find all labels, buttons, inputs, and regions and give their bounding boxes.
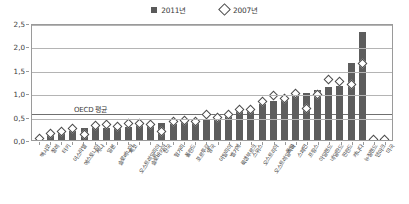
x-axis-tick-mark: [139, 142, 140, 145]
bar-group[interactable]: [45, 25, 56, 140]
bar-group[interactable]: [268, 25, 279, 140]
bar-group[interactable]: [156, 25, 167, 140]
bar-2011[interactable]: [336, 86, 343, 140]
y-axis-tick-mark: [26, 47, 29, 48]
bar-group[interactable]: [179, 25, 190, 140]
marker-2007[interactable]: [35, 133, 45, 141]
bar-group[interactable]: [346, 25, 357, 140]
bar-group[interactable]: [379, 25, 390, 140]
x-axis-label-slot: 벨기에: [223, 142, 234, 204]
marker-2007[interactable]: [379, 134, 389, 141]
bar-group[interactable]: [245, 25, 256, 140]
bar-group[interactable]: [56, 25, 67, 140]
bar-group[interactable]: [357, 25, 368, 140]
bar-group[interactable]: [168, 25, 179, 140]
x-axis-label-slot: 슬로베니아: [111, 142, 122, 204]
x-axis-label-slot: 이탈리아: [212, 142, 223, 204]
bar-group[interactable]: [323, 25, 334, 140]
legend-label-2007: 2007년: [233, 4, 258, 15]
bar-2011[interactable]: [236, 110, 243, 140]
bar-2011[interactable]: [270, 101, 277, 140]
x-axis-tick-mark: [274, 142, 275, 145]
gridline: [32, 95, 392, 96]
x-axis-label-slot: 슬로바키아: [145, 142, 156, 204]
bar-group[interactable]: [90, 25, 101, 140]
bar-group[interactable]: [234, 25, 245, 140]
x-axis-tick-mark: [374, 142, 375, 145]
y-axis-tick-mark: [26, 71, 29, 72]
x-axis-tick-mark: [251, 142, 252, 145]
x-axis-label-slot: 이스라엘: [67, 142, 78, 204]
x-axis-label-slot: 케냐: [89, 142, 100, 204]
x-axis-label-slot: 독일: [279, 142, 290, 204]
open-diamond-icon: [218, 3, 231, 16]
bar-2011[interactable]: [292, 95, 299, 140]
bar-group[interactable]: [134, 25, 145, 140]
y-axis-tick-mark: [26, 141, 29, 142]
x-axis-label-slot: 오스트레일리아: [134, 142, 145, 204]
y-axis-tick-label: 0,0: [14, 137, 25, 146]
marker-2007[interactable]: [324, 75, 334, 85]
bar-group[interactable]: [257, 25, 268, 140]
x-axis-tick-mark: [184, 142, 185, 145]
bar-group[interactable]: [67, 25, 78, 140]
x-axis-tick-mark: [150, 142, 151, 145]
y-axis-tick-label: 0,5: [14, 113, 25, 122]
x-axis-tick-label: 미국: [385, 143, 397, 155]
bar-group[interactable]: [79, 25, 90, 140]
bar-group[interactable]: [368, 25, 379, 140]
x-axis-label-slot: 네덜란드: [324, 142, 335, 204]
bar-group[interactable]: [301, 25, 312, 140]
x-axis-label-slot: 헝가리: [167, 142, 178, 204]
x-axis-label-slot: 폴란드: [178, 142, 189, 204]
x-axis-tick-mark: [341, 142, 342, 145]
y-axis-tick-label: 1,0: [14, 90, 25, 99]
bar-group[interactable]: [279, 25, 290, 140]
x-axis-tick-mark: [285, 142, 286, 145]
bar-group[interactable]: [101, 25, 112, 140]
bar-group[interactable]: [112, 25, 123, 140]
oecd-comparison-bar-chart: 2011년 2007년 0,00,51,01,52,02,5 OECD 평균 멕…: [0, 0, 409, 204]
x-axis-label-slot: 뉴질랜드: [357, 142, 368, 204]
x-axis-tick-mark: [240, 142, 241, 145]
bar-group[interactable]: [334, 25, 345, 140]
gridline: [32, 48, 392, 49]
bar-group[interactable]: [212, 25, 223, 140]
x-axis-tick-mark: [83, 142, 84, 145]
bar-group[interactable]: [312, 25, 323, 140]
bar-2011[interactable]: [259, 104, 266, 141]
bar-group[interactable]: [201, 25, 212, 140]
x-axis-label-slot: 에스토니아: [78, 142, 89, 204]
bar-2011[interactable]: [303, 93, 310, 140]
x-axis-label-slot: 아일랜드: [313, 142, 324, 204]
bar-2011[interactable]: [103, 128, 110, 140]
filled-square-icon: [151, 7, 157, 13]
bar-group[interactable]: [190, 25, 201, 140]
legend-item-2011[interactable]: 2011년: [151, 4, 186, 15]
bar-group[interactable]: [34, 25, 45, 140]
bar-group[interactable]: [290, 25, 301, 140]
x-axis-tick-mark: [162, 142, 163, 145]
x-axis-label-slot: 오스트레일리아: [268, 142, 279, 204]
bar-2011[interactable]: [348, 63, 355, 140]
x-axis-tick-mark: [195, 142, 196, 145]
marker-2007[interactable]: [368, 134, 378, 141]
bar-2011[interactable]: [125, 127, 132, 140]
x-axis-tick-mark: [39, 142, 40, 145]
x-axis-label-slot: 오스트리아: [257, 142, 268, 204]
x-axis-tick-mark: [61, 142, 62, 145]
x-axis-tick-mark: [106, 142, 107, 145]
bar-group[interactable]: [223, 25, 234, 140]
bars-layer: [32, 25, 392, 140]
bar-2011[interactable]: [203, 119, 210, 140]
bar-2011[interactable]: [247, 111, 254, 140]
gridline: [32, 72, 392, 73]
x-axis-tick-mark: [363, 142, 364, 145]
bar-group[interactable]: [123, 25, 134, 140]
x-axis-tick-mark: [318, 142, 319, 145]
y-axis-tick-mark: [26, 94, 29, 95]
x-axis-tick-mark: [50, 142, 51, 145]
bar-group[interactable]: [145, 25, 156, 140]
legend-item-2007[interactable]: 2007년: [220, 4, 258, 15]
x-axis-label-slot: 스위스: [246, 142, 257, 204]
